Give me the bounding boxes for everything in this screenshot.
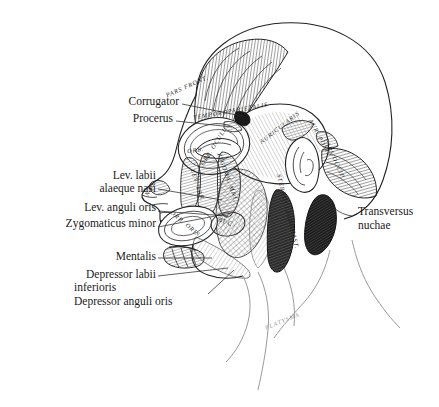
inline-muscle-label-pars-occipitalis: PARS OCCIP.	[323, 136, 348, 180]
inline-muscle-label-orbicularis-oris: ORB. ORIS	[169, 209, 202, 238]
inline-muscle-label-nasalis: NAS.	[142, 179, 156, 197]
inline-labels-layer: PARS FRONT.TEMPOROPARIETALISAURICULARISA…	[0, 0, 439, 407]
inline-muscle-label-platysma: PLATYSMA	[263, 311, 301, 332]
inline-muscle-label-orbicularis-oculi-2: ORB.	[187, 145, 205, 154]
inline-muscle-label-sternocleidomastoid: STERNOCLEIDOMAST.	[276, 173, 301, 249]
inline-muscle-label-buccinator: BUC.	[217, 216, 236, 228]
anatomical-figure: Corrugator Procerus Lev. labii alaeque n…	[0, 0, 439, 407]
inline-muscle-label-temporoparietalis: TEMPOROPARIETALIS	[193, 100, 269, 120]
inline-muscle-label-levator-labii: LEV. LAB.	[189, 167, 206, 202]
inline-muscle-label-zygomaticus-major: ZYGOMA. MAJ.	[216, 152, 240, 203]
inline-muscle-label-pars-frontalis: PARS FRONT.	[164, 73, 210, 98]
inline-muscle-label-auricularis-superior: AURICULARIS	[257, 109, 301, 145]
